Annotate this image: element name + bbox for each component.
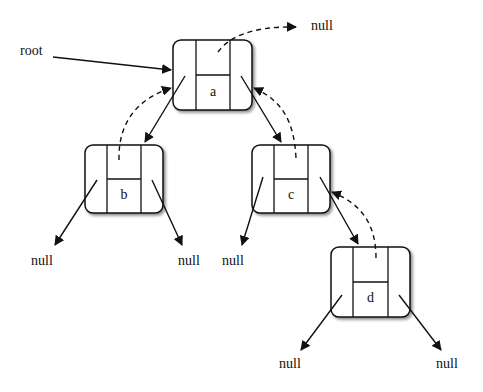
null-label-d-right: null: [436, 357, 458, 371]
null-label-b-right: null: [178, 254, 200, 268]
node-a: [173, 40, 252, 110]
node-d: [331, 247, 410, 317]
null-label-b-left: null: [31, 254, 53, 268]
d-left-null-arrow: [301, 295, 342, 350]
null-label-c-left: null: [222, 254, 244, 268]
null-label-d-left: null: [279, 357, 301, 371]
node-b-value: b: [107, 188, 141, 202]
node-a-value: a: [196, 85, 230, 99]
root-arrow: [53, 57, 171, 70]
node-d-value: d: [353, 291, 388, 305]
root-label: root: [20, 44, 43, 58]
node-b: [85, 145, 163, 213]
tree-diagram: [0, 0, 483, 392]
null-label-a-parent: null: [311, 19, 333, 33]
d-right-null-arrow: [399, 295, 441, 350]
node-c-value: c: [274, 188, 308, 202]
node-c: [252, 145, 330, 213]
